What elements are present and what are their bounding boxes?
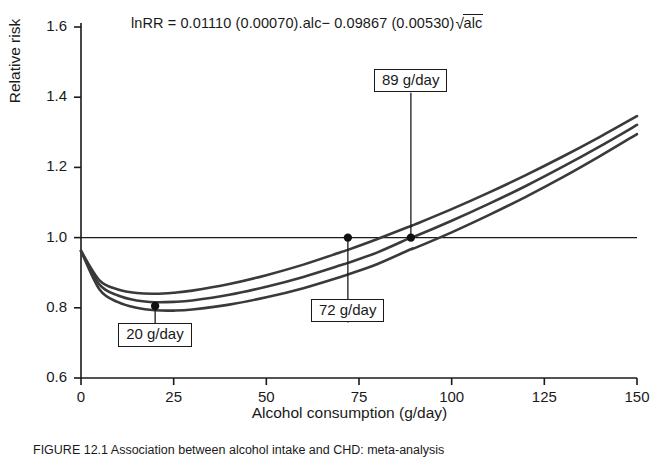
equation-radical-argument: alc <box>463 14 484 31</box>
x-tick-label: 125 <box>514 388 574 405</box>
equation-sqrt-coefficient: − 0.09867 (0.00530) <box>321 15 454 31</box>
callout-nadir-20: 20 g/day <box>118 323 192 347</box>
x-tick-label: 75 <box>329 388 389 405</box>
figure-container: lnRR = 0.01110 (0.00070).alc− 0.09867 (0… <box>0 0 651 457</box>
x-tick-label: 0 <box>51 388 111 405</box>
x-tick-label: 150 <box>607 388 651 405</box>
curve-central-estimate <box>81 125 637 302</box>
data-point-marker <box>344 233 352 241</box>
x-axis-title: Alcohol consumption (g/day) <box>0 404 651 422</box>
equation-radical: √alc <box>454 14 483 32</box>
x-tick-label: 25 <box>144 388 204 405</box>
curve-upper-confidence-limit <box>81 116 637 294</box>
y-tick-label: 0.6 <box>21 368 67 385</box>
equation-linear-term: lnRR = 0.01110 (0.00070).alc <box>131 15 321 31</box>
data-point-marker <box>407 233 415 241</box>
y-tick-label: 1.2 <box>21 157 67 174</box>
y-tick-label: 1.6 <box>21 17 67 34</box>
callout-crossing-72: 72 g/day <box>311 299 385 323</box>
x-tick-label: 50 <box>236 388 296 405</box>
x-axis-ticks <box>81 378 637 385</box>
y-axis-ticks <box>74 27 81 378</box>
data-point-marker <box>151 302 159 310</box>
y-tick-label: 1.4 <box>21 87 67 104</box>
model-equation-annotation: lnRR = 0.01110 (0.00070).alc− 0.09867 (0… <box>131 14 483 32</box>
figure-caption: FIGURE 12.1 Association between alcohol … <box>33 443 633 457</box>
risk-curves <box>81 116 637 311</box>
y-tick-label: 0.8 <box>21 298 67 315</box>
y-tick-label: 1.0 <box>21 228 67 245</box>
callout-crossing-89: 89 g/day <box>374 69 448 93</box>
x-tick-label: 100 <box>422 388 482 405</box>
